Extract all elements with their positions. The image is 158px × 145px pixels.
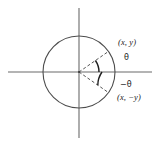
label-point-lower: (x, −y) bbox=[117, 93, 141, 102]
radius-ray-upper bbox=[79, 51, 109, 72]
origin-point bbox=[78, 71, 80, 73]
label-angle-theta: θ bbox=[124, 54, 129, 62]
unit-circle-graphic bbox=[0, 0, 158, 145]
angle-arc-negative bbox=[98, 72, 102, 85]
angle-arc-positive bbox=[95, 61, 99, 73]
unit-circle-diagram: (x, y) θ −θ (x, −y) bbox=[0, 0, 158, 145]
radius-ray-lower bbox=[79, 72, 109, 93]
label-point-upper: (x, y) bbox=[118, 38, 136, 47]
label-angle-negative-theta: −θ bbox=[120, 81, 132, 89]
